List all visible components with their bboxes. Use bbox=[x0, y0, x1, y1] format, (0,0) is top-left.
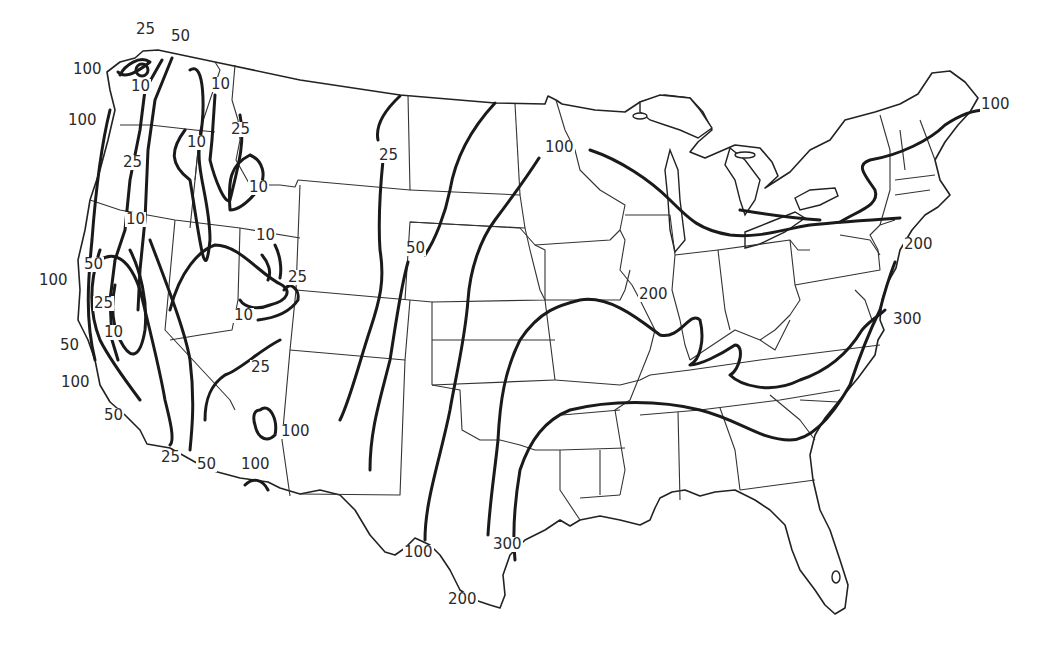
contour-label: 50 bbox=[83, 257, 104, 272]
contour-label: 50 bbox=[170, 29, 191, 44]
contour-label: 10 bbox=[186, 135, 207, 150]
contour-label: 300 bbox=[892, 312, 923, 327]
contour-label: 25 bbox=[135, 22, 156, 37]
contour-label: 10 bbox=[130, 79, 151, 94]
contour-label: 25 bbox=[160, 450, 181, 465]
contour-label: 10 bbox=[233, 308, 254, 323]
contour-label: 10 bbox=[255, 228, 276, 243]
lake-superior bbox=[640, 95, 712, 138]
lake-ontario bbox=[795, 188, 838, 210]
contour-label: 200 bbox=[638, 287, 669, 302]
contour-label: 300 bbox=[492, 537, 523, 552]
contour-label: 25 bbox=[122, 155, 143, 170]
contour-label: 25 bbox=[230, 122, 251, 137]
contour-label: 200 bbox=[447, 592, 478, 607]
contour-label: 200 bbox=[903, 237, 934, 252]
contour-label: 25 bbox=[378, 148, 399, 163]
contour-label: 50 bbox=[59, 338, 80, 353]
contour-label: 100 bbox=[240, 457, 271, 472]
isle-royale bbox=[633, 113, 647, 119]
contour-label: 100 bbox=[38, 273, 69, 288]
state-boundaries bbox=[90, 62, 935, 520]
contour-label: 100 bbox=[72, 62, 103, 77]
lake-okeechobee bbox=[832, 571, 840, 583]
contour-lines bbox=[88, 58, 985, 560]
contour-label: 10 bbox=[125, 212, 146, 227]
contour-label: 50 bbox=[196, 457, 217, 472]
contour-label: 50 bbox=[103, 408, 124, 423]
contour-label: 25 bbox=[93, 296, 114, 311]
contour-label: 100 bbox=[980, 97, 1011, 112]
contour-label: 10 bbox=[103, 325, 124, 340]
contour-label: 100 bbox=[403, 545, 434, 560]
us-contour-map bbox=[0, 0, 1053, 666]
contour-label: 25 bbox=[250, 360, 271, 375]
contour-label: 50 bbox=[405, 241, 426, 256]
contour-label: 25 bbox=[287, 270, 308, 285]
contour-label: 100 bbox=[60, 375, 91, 390]
contour-label: 100 bbox=[280, 424, 311, 439]
contour-label: 100 bbox=[544, 140, 575, 155]
contour-label: 10 bbox=[248, 180, 269, 195]
contour-label: 100 bbox=[67, 113, 98, 128]
lake-michigan bbox=[665, 150, 685, 252]
contour-label: 10 bbox=[210, 77, 231, 92]
small-lake-mi bbox=[735, 152, 755, 158]
